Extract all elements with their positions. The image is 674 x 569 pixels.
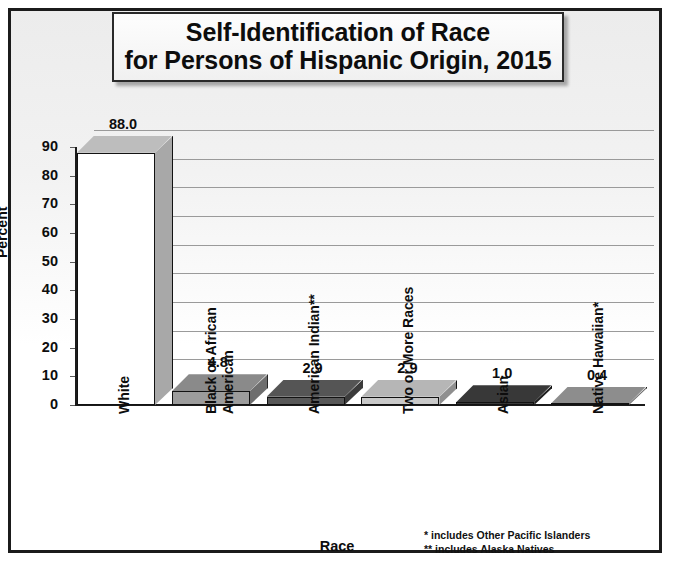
x-category-label: Two or More Races xyxy=(400,287,417,414)
gridline xyxy=(94,187,654,188)
x-category-label: Black or AfricanAmerican xyxy=(203,307,236,414)
y-tick-label-text: 80 xyxy=(22,167,58,183)
gridline xyxy=(94,245,654,246)
y-tick-label: 20 xyxy=(22,339,62,355)
y-tick-mark xyxy=(70,233,75,234)
gridline xyxy=(94,216,654,217)
y-tick-label-text: 50 xyxy=(22,253,58,269)
bar[interactable] xyxy=(77,136,172,405)
y-tick-label: 60 xyxy=(22,224,62,240)
y-tick-label: 80 xyxy=(22,167,62,183)
gridline xyxy=(94,302,654,303)
y-tick-label: 70 xyxy=(22,195,62,211)
y-tick-mark xyxy=(70,348,75,349)
gridline xyxy=(94,130,654,131)
y-tick-label: 30 xyxy=(22,310,62,326)
bar-value-label: 88.0 xyxy=(84,116,162,132)
y-tick-mark xyxy=(70,376,75,377)
y-tick-mark xyxy=(70,290,75,291)
y-tick-mark xyxy=(70,147,75,148)
y-tick-mark xyxy=(70,204,75,205)
y-tick-label-text: 90 xyxy=(22,138,58,154)
x-category-label-line: Two or More Races xyxy=(400,287,416,414)
x-category-label-line: Native Hawaiian* xyxy=(590,302,606,414)
x-category-label: Native Hawaiian* xyxy=(590,302,607,414)
y-axis-title: Percent xyxy=(0,207,10,258)
y-tick-label-text: 60 xyxy=(22,224,58,240)
x-category-label-line: Asian xyxy=(495,376,511,414)
chart-title-box: Self-Identification of Race for Persons … xyxy=(112,12,564,82)
bar-side-face xyxy=(155,136,173,405)
y-tick-label-text: 10 xyxy=(22,367,58,383)
x-category-label: White xyxy=(116,376,133,414)
x-category-label-line: Black or African xyxy=(203,307,219,414)
bar-front-face xyxy=(77,153,155,405)
x-category-label: Asian xyxy=(495,376,512,414)
y-tick-label-text: 0 xyxy=(22,396,58,412)
footnote-line-1: * includes Other Pacific Islanders xyxy=(424,528,590,542)
y-tick-label: 90 xyxy=(22,138,62,154)
chart-title-line-2: for Persons of Hispanic Origin, 2015 xyxy=(120,46,556,74)
y-tick-label: 50 xyxy=(22,253,62,269)
chart-title-line-1: Self-Identification of Race xyxy=(120,18,556,46)
x-category-label: American Indian** xyxy=(306,294,323,414)
y-tick-label-text: 70 xyxy=(22,195,58,211)
footnote-line-2: ** includes Alaska Natives xyxy=(424,542,590,556)
y-tick-mark xyxy=(70,262,75,263)
chart-figure: Self-Identification of Race for Persons … xyxy=(0,0,674,569)
chart-footnotes: * includes Other Pacific Islanders ** in… xyxy=(424,528,590,557)
x-category-label-line: American Indian** xyxy=(306,294,322,414)
x-category-label-line: American xyxy=(219,307,236,414)
gridline xyxy=(94,159,654,160)
gridline xyxy=(94,331,654,332)
y-tick-mark xyxy=(70,405,75,406)
y-tick-label-text: 40 xyxy=(22,281,58,297)
gridline xyxy=(94,273,654,274)
y-tick-mark xyxy=(70,176,75,177)
x-category-label-line: White xyxy=(116,376,132,414)
y-tick-label: 40 xyxy=(22,281,62,297)
y-tick-label: 0 xyxy=(22,396,62,412)
y-tick-label-text: 20 xyxy=(22,339,58,355)
y-tick-label-text: 30 xyxy=(22,310,58,326)
y-tick-label: 10 xyxy=(22,367,62,383)
y-tick-mark xyxy=(70,319,75,320)
